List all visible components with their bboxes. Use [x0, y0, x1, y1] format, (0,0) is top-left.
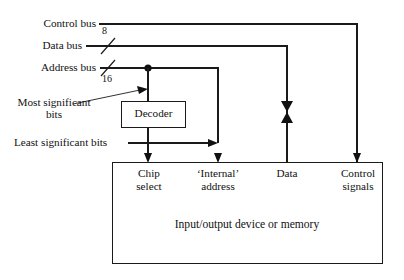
port-data-line1: Data [261, 167, 313, 180]
device-label: Input/output device or memory [112, 219, 382, 232]
decoder-label: Decoder [121, 107, 186, 119]
data-bidirectional-arrow-icon [281, 101, 293, 123]
data-bus-label: Data bus [18, 39, 82, 51]
port-control-signals-line1: Control [327, 167, 389, 180]
control-bus-label: Control bus [18, 17, 96, 29]
internal-address-arrowhead-icon [214, 153, 222, 163]
msb-arrowhead-icon [137, 86, 148, 94]
lsb-arrowhead-icon [208, 139, 218, 147]
data-bus-wire [86, 46, 287, 162]
control-signals-arrowhead-icon [353, 153, 361, 163]
data-bus-width-label: 8 [102, 26, 107, 37]
port-internal-address-line2: address [185, 180, 251, 193]
lsb-label: Least significant bits [14, 136, 107, 148]
lsb-wire [128, 139, 222, 163]
port-chip-select-line2: select [118, 180, 180, 193]
msb-label-line1: Most significant [6, 96, 102, 108]
bus-decoding-diagram: Control bus Data bus Address bus 8 16 Mo… [0, 0, 404, 280]
address-bus-width-label: 16 [102, 74, 112, 85]
address-bus-label: Address bus [14, 61, 96, 73]
port-control-signals-line2: signals [327, 180, 389, 193]
chip-select-arrowhead-icon [144, 153, 152, 163]
msb-label-line2: bits [6, 108, 102, 120]
port-internal-address-line1: ‘Internal’ [185, 167, 251, 180]
port-chip-select-line1: Chip [118, 167, 180, 180]
control-bus-wire [99, 24, 357, 162]
decoder-output-wire [144, 127, 152, 163]
